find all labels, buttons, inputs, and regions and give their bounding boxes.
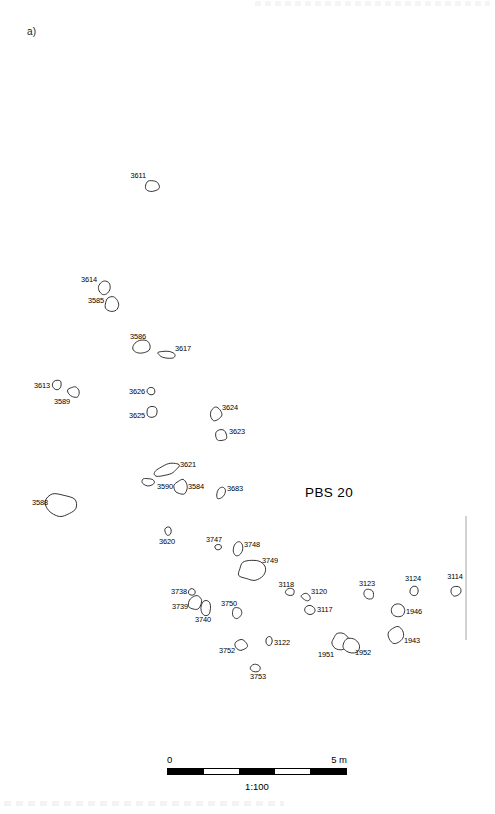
feature-label: 3123 bbox=[359, 579, 375, 588]
feature-outline bbox=[188, 596, 201, 610]
feature-label: 3588 bbox=[32, 498, 48, 507]
feature-label: 3586 bbox=[130, 332, 146, 341]
feature-outline bbox=[216, 430, 227, 441]
feature-outline bbox=[410, 586, 418, 595]
feature-label: 3122 bbox=[274, 638, 290, 647]
feature-outline bbox=[67, 387, 79, 398]
cut-off-caption-rule bbox=[4, 801, 284, 806]
feature-label: 3748 bbox=[244, 540, 260, 549]
feature-outline bbox=[133, 340, 150, 353]
site-plan-figure: a) 3611361435853586361736133589362636253… bbox=[0, 0, 495, 814]
feature-outline bbox=[142, 479, 154, 486]
feature-label: 3120 bbox=[311, 587, 327, 596]
feature-outline bbox=[217, 487, 226, 499]
feature-label: 3625 bbox=[129, 411, 145, 420]
feature-outline bbox=[305, 605, 315, 614]
feature-label: 3124 bbox=[405, 574, 421, 583]
feature-label: 3617 bbox=[175, 344, 191, 353]
feature-label: 1951 bbox=[318, 650, 334, 659]
scale-bar: 0 5 m 1:100 bbox=[167, 755, 347, 792]
feature-label: 3752 bbox=[219, 646, 235, 655]
feature-label: 3739 bbox=[172, 602, 188, 611]
feature-label: 3621 bbox=[180, 460, 196, 469]
feature-label: 3624 bbox=[222, 403, 238, 412]
feature-outline bbox=[201, 601, 211, 616]
feature-label: 3613 bbox=[34, 381, 50, 390]
scale-bar-end-labels: 0 5 m bbox=[167, 755, 347, 766]
scale-segment-3 bbox=[239, 769, 275, 774]
scale-end-label: 5 m bbox=[331, 754, 347, 765]
feature-label: 3753 bbox=[250, 672, 266, 681]
scale-bar-segments bbox=[167, 768, 347, 775]
feature-label: 3740 bbox=[195, 615, 211, 624]
feature-outline bbox=[233, 542, 243, 556]
feature-label: 3623 bbox=[229, 427, 245, 436]
scale-segment-5 bbox=[310, 769, 346, 774]
feature-outline bbox=[52, 380, 61, 390]
feature-label: 1946 bbox=[406, 607, 422, 616]
feature-outlines-group bbox=[45, 181, 461, 672]
feature-outline bbox=[451, 586, 461, 596]
feature-outline bbox=[105, 297, 119, 312]
feature-outline bbox=[364, 589, 374, 599]
feature-label: 3614 bbox=[81, 275, 97, 284]
feature-outline bbox=[388, 626, 404, 643]
scale-segment-2 bbox=[204, 769, 240, 774]
feature-outline bbox=[301, 593, 310, 601]
feature-outline bbox=[158, 351, 175, 358]
scale-ratio-label: 1:100 bbox=[167, 781, 347, 792]
feature-label: 3626 bbox=[129, 387, 145, 396]
scale-segment-1 bbox=[168, 769, 204, 774]
feature-label: 1943 bbox=[404, 636, 420, 645]
feature-label: 3118 bbox=[279, 580, 295, 589]
plan-canvas: 3611361435853586361736133589362636253624… bbox=[0, 0, 495, 760]
feature-label: 3738 bbox=[171, 587, 187, 596]
feature-outline bbox=[210, 407, 222, 421]
feature-label: 3590 bbox=[157, 482, 173, 491]
site-title: PBS 20 bbox=[305, 485, 353, 500]
feature-outline bbox=[147, 387, 155, 394]
feature-label: 3747 bbox=[206, 535, 222, 544]
feature-label: 3584 bbox=[188, 482, 204, 491]
scale-start-label: 0 bbox=[167, 754, 172, 765]
feature-outline bbox=[215, 544, 222, 549]
feature-outline bbox=[188, 589, 195, 596]
feature-label: 1952 bbox=[355, 648, 371, 657]
feature-outline bbox=[165, 527, 171, 535]
feature-label: 3611 bbox=[131, 171, 147, 180]
feature-outline bbox=[98, 281, 110, 295]
feature-label: 3589 bbox=[54, 397, 70, 406]
scale-segment-4 bbox=[275, 769, 311, 774]
feature-outline bbox=[145, 181, 159, 192]
feature-outline bbox=[147, 406, 157, 417]
feature-outline bbox=[266, 637, 272, 646]
feature-label: 3620 bbox=[159, 537, 175, 546]
feature-label: 3114 bbox=[447, 572, 463, 581]
feature-label: 3117 bbox=[317, 605, 333, 614]
feature-outline bbox=[391, 604, 404, 617]
feature-label: 3750 bbox=[221, 599, 237, 608]
feature-outline bbox=[232, 608, 241, 619]
feature-outline bbox=[174, 479, 187, 494]
feature-outline bbox=[235, 640, 248, 651]
feature-outline bbox=[154, 463, 179, 476]
feature-outline bbox=[285, 588, 294, 595]
feature-label: 3585 bbox=[88, 296, 104, 305]
feature-label: 3683 bbox=[227, 484, 243, 493]
feature-label: 3749 bbox=[262, 556, 278, 565]
feature-outline bbox=[45, 494, 77, 517]
feature-outline bbox=[250, 664, 260, 672]
